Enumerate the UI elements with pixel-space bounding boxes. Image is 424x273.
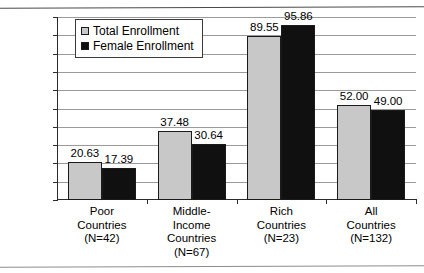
bar-female	[102, 168, 136, 200]
bar-value-label: 52.00	[340, 90, 369, 102]
bar-value-label: 17.39	[104, 153, 133, 165]
y-axis-tick	[53, 145, 58, 146]
bar-value-label: 49.00	[374, 95, 403, 107]
bar-total	[68, 162, 102, 200]
chart-legend: Total Enrollment Female Enrollment	[75, 19, 203, 58]
x-axis-tick	[147, 199, 148, 204]
y-axis-tick	[53, 72, 58, 73]
page-rule-top	[0, 6, 424, 9]
bar-total	[247, 36, 281, 200]
legend-label-female: Female Enrollment	[93, 39, 194, 53]
bar-value-label: 37.48	[160, 116, 189, 128]
bar-total	[158, 131, 192, 200]
y-axis-tick	[53, 35, 58, 36]
legend-item-female: Female Enrollment	[81, 38, 194, 53]
page-rule-bottom	[0, 265, 424, 267]
x-axis-category-label: Middle-IncomeCountries(N=67)	[167, 205, 216, 259]
legend-item-total: Total Enrollment	[81, 23, 194, 38]
bar-female	[192, 144, 226, 200]
chart-figure: 0.0010.0020.0030.0040.0050.0060.0070.008…	[0, 0, 424, 273]
y-axis-tick	[53, 17, 58, 18]
x-axis-tick	[416, 199, 417, 204]
bar-total	[337, 105, 371, 200]
bar-female	[371, 110, 405, 200]
x-axis-category-label: RichCountries(N=23)	[257, 205, 306, 246]
y-axis-tick	[53, 90, 58, 91]
x-axis-tick	[326, 199, 327, 204]
x-axis-category-label: PoorCountries(N=42)	[77, 205, 126, 246]
y-axis-tick	[53, 182, 58, 183]
bar-value-label: 30.64	[194, 129, 223, 141]
y-axis-tick	[53, 163, 58, 164]
bar-value-label: 95.86	[284, 10, 313, 22]
x-axis-category-label: AllCountries(N=132)	[347, 205, 396, 246]
legend-swatch-female-icon	[81, 42, 89, 50]
y-axis-tick	[53, 109, 58, 110]
y-axis-tick	[53, 200, 58, 201]
legend-label-total: Total Enrollment	[93, 24, 179, 38]
y-axis-tick	[53, 127, 58, 128]
grid-line	[57, 17, 416, 18]
bar-value-label: 20.63	[70, 147, 99, 159]
bar-female	[281, 25, 315, 200]
grid-line	[57, 72, 416, 73]
y-axis-tick	[53, 54, 58, 55]
x-axis-tick	[237, 199, 238, 204]
legend-swatch-total-icon	[81, 27, 89, 35]
bar-value-label: 89.55	[250, 21, 279, 33]
